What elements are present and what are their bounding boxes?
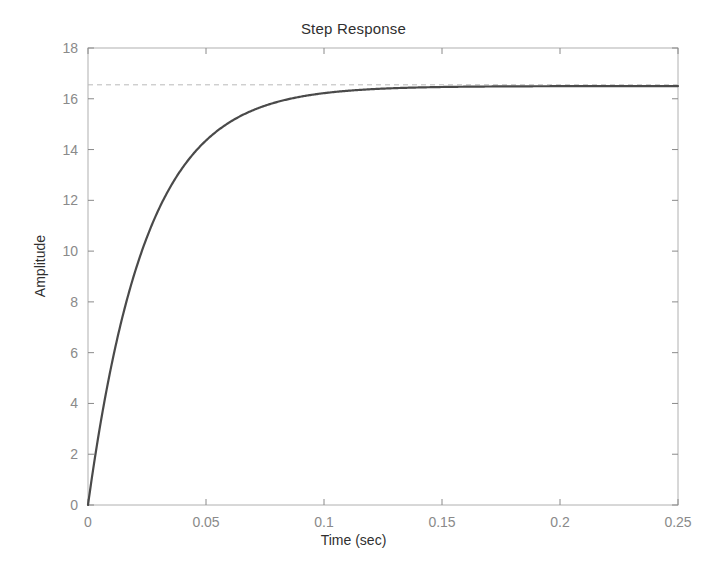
x-tick-label: 0.25 [664, 514, 691, 530]
y-axis-ticks: 024681012141618 [62, 40, 678, 513]
y-tick-label: 10 [62, 243, 78, 259]
y-tick-label: 4 [70, 395, 78, 411]
y-tick-label: 18 [62, 40, 78, 56]
y-tick-label: 2 [70, 446, 78, 462]
x-tick-label: 0.1 [314, 514, 334, 530]
x-tick-label: 0 [84, 514, 92, 530]
step-response-curve [88, 86, 678, 505]
y-tick-label: 14 [62, 142, 78, 158]
x-tick-label: 0.15 [428, 514, 455, 530]
y-tick-label: 12 [62, 192, 78, 208]
axes-box [88, 48, 678, 505]
y-tick-label: 0 [70, 497, 78, 513]
y-tick-label: 6 [70, 345, 78, 361]
x-tick-label: 0.2 [550, 514, 570, 530]
y-tick-label: 8 [70, 294, 78, 310]
x-axis-ticks: 00.050.10.150.20.25 [84, 48, 692, 530]
x-tick-label: 0.05 [192, 514, 219, 530]
figure-canvas: Step Response Amplitude Time (sec) 00.05… [0, 0, 707, 578]
y-tick-label: 16 [62, 91, 78, 107]
step-response-chart: 00.050.10.150.20.25 024681012141618 [0, 0, 707, 578]
